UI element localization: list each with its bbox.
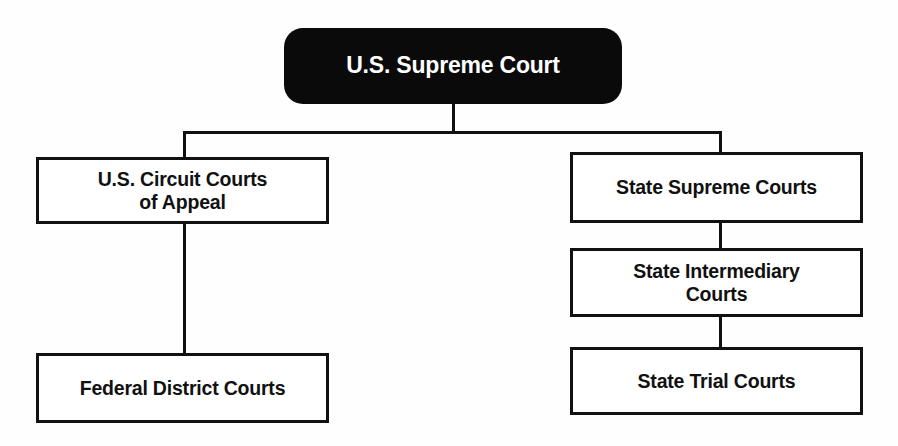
node-label-state-supreme-courts: State Supreme Courts <box>616 176 817 199</box>
node-state-intermediary-courts: State Intermediary Courts <box>570 248 863 317</box>
node-us-circuit-courts-of-appeal: U.S. Circuit Courts of Appeal <box>36 157 329 224</box>
node-label-us-supreme-court: U.S. Supreme Court <box>346 52 560 79</box>
node-label-federal-district-courts: Federal District Courts <box>80 377 286 400</box>
node-federal-district-courts: Federal District Courts <box>36 353 329 423</box>
node-state-supreme-courts: State Supreme Courts <box>570 152 863 223</box>
edge-circuit-to-district <box>183 222 186 355</box>
node-state-trial-courts: State Trial Courts <box>570 347 863 415</box>
edge-root-to-state-supreme <box>719 131 722 154</box>
edge-root-split-bar <box>183 131 722 134</box>
court-hierarchy-diagram: U.S. Supreme Court U.S. Circuit Courts o… <box>0 0 898 446</box>
edge-state-intermediary-to-trial <box>719 315 722 349</box>
node-label-state-intermediary-courts: State Intermediary Courts <box>633 260 800 306</box>
edge-root-to-circuit <box>183 131 186 159</box>
node-label-us-circuit-courts-of-appeal: U.S. Circuit Courts of Appeal <box>98 168 268 214</box>
node-label-state-trial-courts: State Trial Courts <box>638 370 796 393</box>
node-us-supreme-court: U.S. Supreme Court <box>284 28 622 104</box>
edge-root-stem <box>452 102 455 133</box>
edge-state-supreme-to-intermediary <box>719 221 722 250</box>
